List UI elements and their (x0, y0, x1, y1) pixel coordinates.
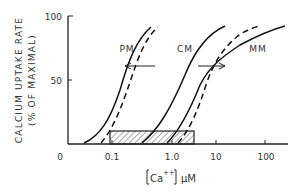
x-tick-0: 0 (57, 152, 63, 162)
x-tick-1.0: 1.0 (165, 152, 180, 162)
svg-text:CALCIUM UPTAKE RATE: CALCIUM UPTAKE RATE (14, 17, 24, 143)
y-tick-50: 50 (51, 76, 63, 86)
label-pm: PM (119, 44, 134, 54)
x-tick-0.1: 0.1 (105, 152, 119, 162)
label-cm: CM (177, 44, 193, 54)
curve-pm-solid (84, 27, 151, 143)
shift-arrows (125, 63, 225, 69)
label-mm: MM (249, 44, 267, 54)
y-axis-label: CALCIUM UPTAKE RATE (% OF MAXIMAL) (14, 17, 37, 143)
svg-text:++: ++ (163, 169, 175, 177)
svg-text:(% OF MAXIMAL): (% OF MAXIMAL) (27, 34, 37, 126)
x-axis-label: Ca ++ µM (147, 169, 196, 184)
svg-text:Ca: Ca (150, 173, 163, 184)
y-tick-100: 100 (45, 12, 62, 22)
chart: 100 50 0 0.1 1.0 10 100 CALCIUM UPTAKE R… (0, 0, 299, 193)
x-tick-10: 10 (210, 152, 222, 162)
x-tick-100: 100 (257, 152, 274, 162)
svg-text:µM: µM (181, 173, 196, 184)
y-axis (68, 16, 73, 144)
